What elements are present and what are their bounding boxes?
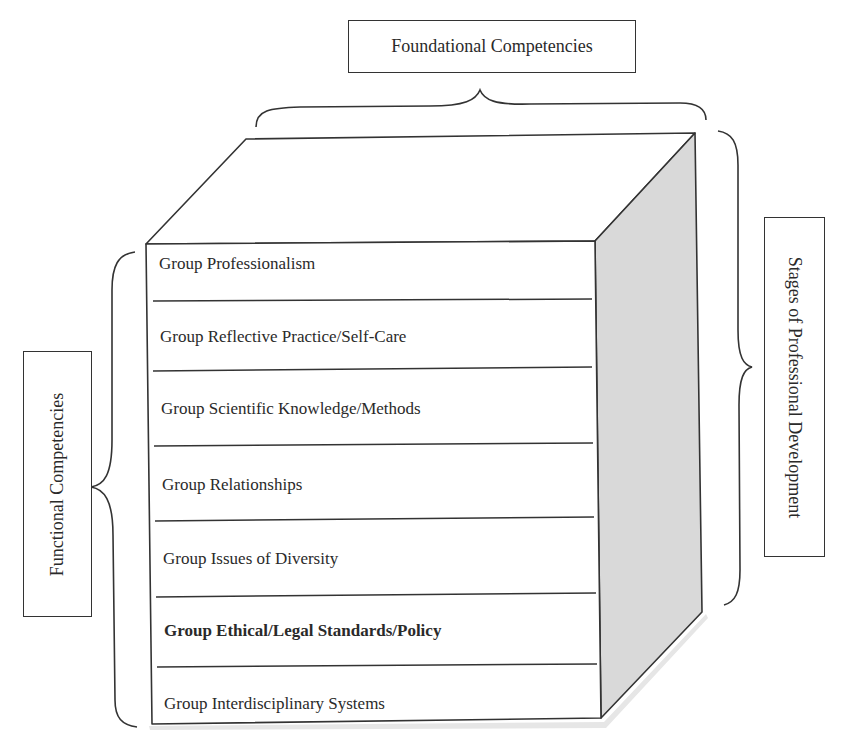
row-label-interdisciplinary-systems: Group Interdisciplinary Systems — [164, 694, 385, 714]
row-label-reflective-practice: Group Reflective Practice/Self-Care — [160, 327, 406, 347]
stages-of-professional-development-label: Stages of Professional Development — [784, 256, 805, 517]
stages-of-professional-development-box: Stages of Professional Development — [764, 217, 825, 557]
row-label-scientific-knowledge: Group Scientific Knowledge/Methods — [161, 399, 421, 419]
row-label-issues-of-diversity: Group Issues of Diversity — [163, 549, 338, 569]
functional-competencies-label: Functional Competencies — [47, 392, 68, 575]
right-brace — [718, 131, 752, 605]
foundational-competencies-box: Foundational Competencies — [348, 20, 636, 73]
top-brace — [256, 90, 706, 127]
row-label-ethical-legal-standards: Group Ethical/Legal Standards/Policy — [164, 621, 441, 641]
left-brace — [91, 252, 137, 727]
foundational-competencies-label: Foundational Competencies — [391, 36, 592, 57]
row-label-relationships: Group Relationships — [162, 475, 302, 495]
row-label-professionalism: Group Professionalism — [159, 254, 315, 274]
functional-competencies-box: Functional Competencies — [23, 351, 92, 617]
